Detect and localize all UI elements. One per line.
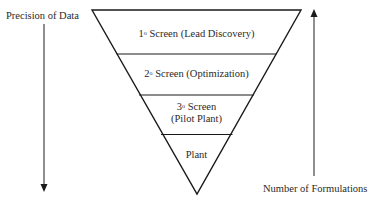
funnel-diagram: Precision of Data Number of Formulations… (0, 0, 379, 203)
left-axis-label: Precision of Data (6, 10, 79, 22)
right-axis-label: Number of Formulations (263, 183, 367, 195)
funnel-level-1: 1o Screen (Lead Discovery) (130, 28, 263, 40)
funnel-level-2: 2o Screen (Optimization) (130, 68, 263, 80)
down-arrow-head-icon (41, 184, 48, 192)
funnel-level-4: Plant (170, 149, 223, 161)
funnel-level-3: 3o Screen (Pilot Plant) (150, 101, 243, 125)
up-arrow-head-icon (311, 9, 318, 17)
